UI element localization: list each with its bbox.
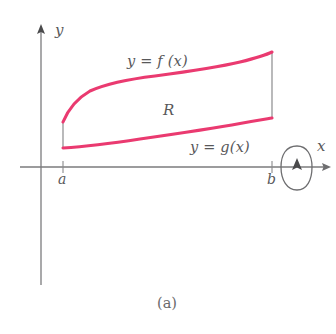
y-axis-label: y <box>55 23 63 38</box>
lower-curve-label: y = g(x) <box>190 140 250 155</box>
bound-label-b: b <box>267 172 276 186</box>
revolution-arrow-icon <box>281 146 312 190</box>
bound-label-a: a <box>58 172 66 186</box>
region-label: R <box>163 103 174 118</box>
figure-container: y x y = f (x) R y = g(x) a b (a) <box>0 0 336 334</box>
figure-graphic <box>0 0 336 334</box>
x-axis <box>20 163 331 171</box>
x-axis-label: x <box>317 139 325 154</box>
upper-curve-label: y = f (x) <box>127 54 188 69</box>
y-axis <box>37 24 45 285</box>
figure-caption: (a) <box>157 295 177 311</box>
